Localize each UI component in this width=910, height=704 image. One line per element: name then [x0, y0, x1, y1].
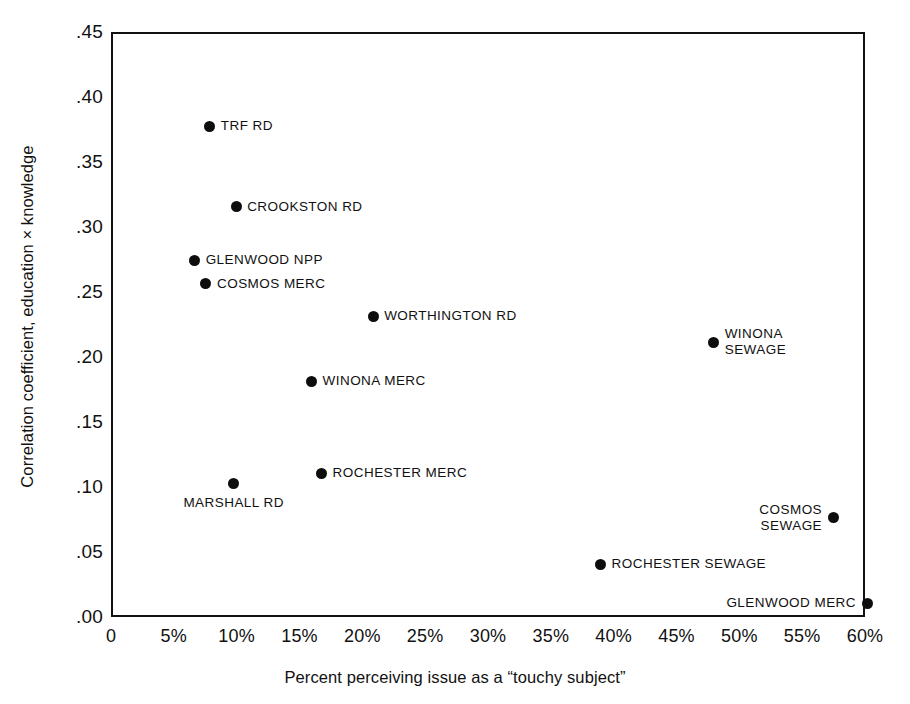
data-point-label: COSMOS MERC: [217, 276, 325, 292]
x-tick-label: 45%: [658, 626, 695, 647]
x-axis-title: Percent perceiving issue as a “touchy su…: [0, 668, 910, 687]
x-axis-tick-labels: 05%10%15%20%25%30%35%40%45%50%55%60%: [111, 626, 865, 652]
data-point-label: WINONA MERC: [323, 373, 426, 389]
scatter-plot-figure: Correlation coefficient, education × kno…: [0, 0, 910, 704]
y-tick-label: .35: [76, 151, 103, 173]
y-tick-label: .15: [76, 411, 103, 433]
x-tick-label: 60%: [847, 626, 884, 647]
data-point: [708, 337, 719, 348]
data-point: [231, 201, 242, 212]
data-point: [595, 559, 606, 570]
y-tick-label: .05: [76, 541, 103, 563]
data-point-label: GLENWOOD MERC: [726, 595, 856, 611]
x-tick-label: 40%: [595, 626, 632, 647]
data-point-label: TRF RD: [221, 118, 273, 134]
data-point-label: MARSHALL RD: [183, 495, 283, 511]
y-tick-label: .00: [76, 606, 103, 628]
y-tick-label: .40: [76, 86, 103, 108]
y-tick-label: .20: [76, 346, 103, 368]
data-point-label: COSMOS SEWAGE: [759, 502, 822, 534]
y-tick-label: .45: [76, 21, 103, 43]
data-point-label: ROCHESTER SEWAGE: [612, 556, 766, 572]
x-tick-label: 30%: [470, 626, 507, 647]
data-point-label: ROCHESTER MERC: [333, 465, 468, 481]
x-tick-label: 50%: [721, 626, 758, 647]
y-axis-tick-labels: .45.40.35.30.25.20.15.10.05.00: [0, 32, 103, 617]
data-point-label: CROOKSTON RD: [247, 199, 362, 215]
x-tick-label: 5%: [161, 626, 187, 647]
data-point: [368, 311, 379, 322]
data-point: [204, 121, 215, 132]
data-point: [189, 255, 200, 266]
data-point: [862, 598, 873, 609]
x-tick-label: 0: [106, 626, 116, 647]
data-point-label: WORTHINGTON RD: [384, 308, 517, 324]
data-point: [828, 512, 839, 523]
x-tick-label: 20%: [344, 626, 381, 647]
x-tick-label: 25%: [407, 626, 444, 647]
plot-area: TRF RDCROOKSTON RDGLENWOOD NPPCOSMOS MER…: [111, 32, 865, 617]
data-point: [306, 376, 317, 387]
data-point-label: WINONA SEWAGE: [725, 326, 786, 358]
x-tick-label: 35%: [533, 626, 570, 647]
data-point: [200, 278, 211, 289]
y-tick-label: .25: [76, 281, 103, 303]
y-tick-label: .10: [76, 476, 103, 498]
data-point: [316, 468, 327, 479]
x-tick-label: 15%: [281, 626, 318, 647]
x-tick-label: 10%: [218, 626, 255, 647]
data-point-label: GLENWOOD NPP: [206, 252, 323, 268]
y-tick-label: .30: [76, 216, 103, 238]
data-point: [228, 478, 239, 489]
x-tick-label: 55%: [784, 626, 821, 647]
